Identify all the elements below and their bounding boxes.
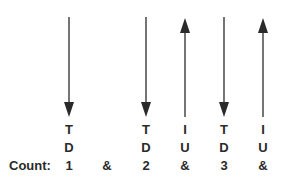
stroke-label: D xyxy=(59,141,79,154)
count-value: 1 xyxy=(59,159,79,172)
count-value: & xyxy=(97,159,117,172)
up-arrow-icon xyxy=(180,18,190,117)
down-arrow-icon xyxy=(141,17,151,117)
finger-label: T xyxy=(214,123,234,136)
down-arrow-icon xyxy=(64,17,74,117)
count-label: Count: xyxy=(9,159,51,172)
down-arrow-icon xyxy=(219,17,229,117)
finger-label: I xyxy=(175,123,195,136)
finger-label: T xyxy=(59,123,79,136)
count-value: & xyxy=(253,159,273,172)
stroke-label: D xyxy=(136,141,156,154)
finger-label: I xyxy=(253,123,273,136)
strum-pattern-diagram: T T I T I D D U D U Count: 1 & 2 & 3 & xyxy=(0,0,287,188)
stroke-label: U xyxy=(253,141,273,154)
stroke-label: D xyxy=(214,141,234,154)
stroke-label: U xyxy=(175,141,195,154)
finger-label: T xyxy=(136,123,156,136)
count-value: & xyxy=(175,159,195,172)
count-value: 3 xyxy=(214,159,234,172)
up-arrow-icon xyxy=(258,18,268,117)
count-value: 2 xyxy=(136,159,156,172)
